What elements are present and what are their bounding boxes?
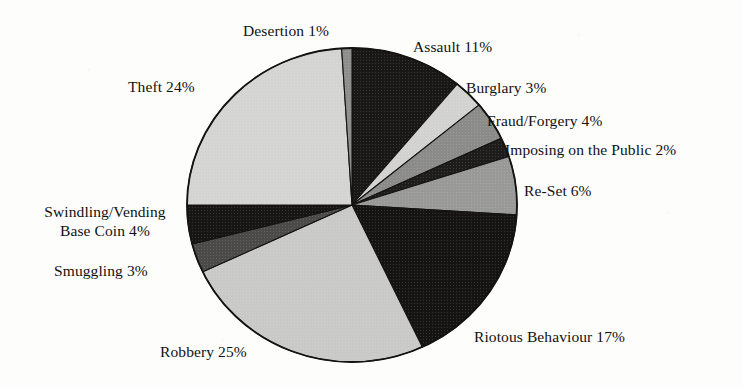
slice-label-smuggling: Smuggling 3% xyxy=(54,262,148,281)
slice-label-desertion: Desertion 1% xyxy=(243,22,329,41)
slice-label-imposing-on-the-public: Imposing on the Public 2% xyxy=(505,141,676,160)
slice-label-burglary: Burglary 3% xyxy=(466,79,546,98)
slice-label-swindling-vending-base-coin: Swindling/Vending Base Coin 4% xyxy=(25,203,185,241)
slice-label-re-set: Re-Set 6% xyxy=(524,182,592,201)
slice-label-riotous-behaviour: Riotous Behaviour 17% xyxy=(474,328,625,347)
pie-slice-theft xyxy=(187,48,352,205)
pie-chart-graphic xyxy=(0,0,742,387)
slice-label-fraud-forgery: Fraud/Forgery 4% xyxy=(487,112,602,131)
slice-label-robbery: Robbery 25% xyxy=(160,343,247,362)
slice-label-swindling-line2: Base Coin 4% xyxy=(60,222,150,239)
slice-label-theft: Theft 24% xyxy=(128,78,195,97)
slice-label-assault: Assault 11% xyxy=(413,38,492,57)
slice-label-swindling-line1: Swindling/Vending xyxy=(44,203,165,220)
pie-chart-figure: Desertion 1% Assault 11% Burglary 3% Fra… xyxy=(0,0,742,387)
